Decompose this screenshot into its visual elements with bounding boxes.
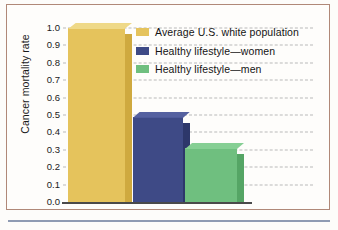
bar-2	[133, 117, 183, 202]
y-tick-label: 0.4	[30, 128, 60, 138]
legend-item: Healthy lifestyle—women	[136, 45, 299, 57]
bar-top-face	[68, 23, 132, 29]
legend-label: Average U.S. white population	[155, 26, 299, 38]
plot-area: Cancer mortality rate 1.00.90.80.70.60.5…	[0, 0, 338, 230]
legend-label: Healthy lifestyle—men	[155, 63, 262, 75]
legend-swatch	[136, 65, 149, 73]
y-tick-label: 0.1	[30, 180, 60, 190]
y-tick-label: 0.8	[30, 58, 60, 68]
bar-1	[68, 28, 125, 202]
bar-front-face	[68, 28, 125, 202]
bar-front-face	[133, 117, 183, 202]
y-tick-label: 0.6	[30, 93, 60, 103]
legend-swatch	[136, 47, 149, 55]
y-tick-label: 0.0	[30, 197, 60, 207]
bar-top-face	[185, 143, 244, 149]
y-tick-label: 0.2	[30, 162, 60, 172]
bar-side-face	[237, 154, 244, 202]
y-tick-label: 1.0	[30, 23, 60, 33]
legend-swatch	[136, 28, 149, 36]
bar-side-face	[125, 34, 132, 202]
x-axis-line	[62, 202, 252, 204]
chart-figure: Cancer mortality rate 1.00.90.80.70.60.5…	[0, 0, 338, 230]
y-tick-label: 0.9	[30, 41, 60, 51]
bar-front-face	[185, 148, 237, 202]
bar-3	[185, 148, 237, 202]
y-tick-label: 0.5	[30, 110, 60, 120]
bar-top-face	[133, 112, 190, 118]
legend-item: Healthy lifestyle—men	[136, 63, 299, 75]
chart-legend: Average U.S. white populationHealthy lif…	[136, 26, 299, 75]
legend-label: Healthy lifestyle—women	[155, 45, 275, 57]
y-tick-label: 0.3	[30, 145, 60, 155]
y-tick-label: 0.7	[30, 75, 60, 85]
legend-item: Average U.S. white population	[136, 26, 299, 38]
